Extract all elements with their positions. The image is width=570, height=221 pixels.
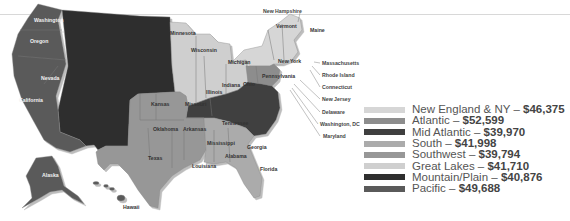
callout-delaware: Delaware — [322, 109, 345, 115]
callout-new-hampshire: New Hampshire — [263, 8, 302, 14]
legend-item: Pacific – $49,688 — [364, 183, 570, 194]
label-wisconsin: Wisconsin — [191, 47, 217, 53]
label-minnesota: Minnesota — [170, 30, 196, 36]
label-illinois: Illinois — [206, 89, 223, 95]
callout-rhode-island: Rhode Island — [322, 72, 355, 78]
legend-swatch — [364, 129, 405, 135]
label-alaska: Alaska — [42, 172, 59, 178]
label-missouri: Missouri — [185, 101, 207, 107]
label-arkansas: Arkansas — [183, 126, 206, 132]
callout-new-jersey: New Jersey — [322, 96, 351, 102]
label-hawaii: Hawaii — [123, 204, 140, 210]
label-tennessee: Tennessee — [222, 120, 249, 126]
label-texas: Texas — [148, 155, 162, 161]
legend-label: Pacific – $49,688 — [412, 183, 500, 194]
legend-swatch — [364, 186, 405, 192]
label-alabama: Alabama — [225, 153, 247, 159]
label-washington: Washington — [34, 17, 64, 23]
legend-swatch — [364, 141, 405, 147]
label-indiana: Indiana — [222, 82, 240, 88]
region-alaska — [22, 156, 84, 208]
callout-washington-dc: Washington, DC — [320, 121, 360, 127]
callout-connecticut: Connecticut — [322, 84, 352, 90]
legend: New England & NY – $46,375 Atlantic – $5… — [364, 104, 570, 194]
label-nevada: Nevada — [41, 75, 60, 81]
region-hawaii — [93, 181, 125, 201]
label-michigan: Michigan — [228, 59, 250, 65]
label-louisiana: Louisiana — [192, 163, 216, 169]
label-vermont: Vermont — [276, 23, 297, 29]
label-ohio: Ohio — [243, 81, 255, 87]
legend-swatch — [364, 118, 405, 124]
label-maine: Maine — [310, 27, 325, 33]
label-mississippi: Mississippi — [207, 140, 236, 146]
label-georgia: Georgia — [247, 144, 267, 150]
label-florida: Florida — [260, 166, 277, 172]
label-california: California — [19, 97, 43, 103]
callout-maryland: Maryland — [323, 133, 346, 139]
label-kansas: Kansas — [151, 101, 170, 107]
legend-swatch — [364, 152, 405, 158]
label-new-york: New York — [278, 58, 301, 64]
legend-swatch — [364, 163, 405, 169]
label-oklahoma: Oklahoma — [153, 126, 178, 132]
label-oregon: Oregon — [30, 38, 48, 44]
legend-swatch — [364, 107, 405, 113]
label-pennsylvania: Pennsylvania — [262, 73, 295, 79]
legend-swatch — [364, 174, 405, 180]
callout-massachusetts: Massachusetts — [322, 60, 359, 66]
